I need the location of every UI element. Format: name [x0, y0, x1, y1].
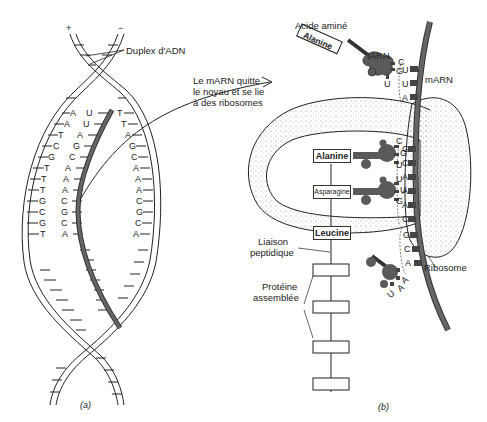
base: C — [61, 219, 68, 228]
base: C — [39, 208, 46, 217]
base: T — [40, 230, 46, 239]
arrow-note: Le mARN quitte le noyau et se lie à des … — [193, 75, 264, 108]
base: A — [133, 230, 139, 239]
plus-strand-marker: + — [66, 23, 71, 34]
panel-b-label: (b) — [378, 402, 389, 412]
minus-strand-marker: − — [118, 23, 123, 34]
base: T — [117, 109, 123, 118]
codon-base: G — [403, 231, 410, 240]
base: A — [77, 131, 83, 140]
codon-base: U — [402, 66, 409, 75]
anticodon-base: U — [384, 80, 391, 89]
codon-base: A — [405, 259, 411, 268]
base: G — [136, 208, 143, 217]
codon-base: A — [402, 187, 408, 196]
base: A — [133, 164, 139, 173]
base: G — [39, 219, 46, 228]
base: C — [136, 197, 143, 206]
base: T — [41, 175, 47, 184]
codon-base: U — [402, 80, 409, 89]
base: C — [135, 219, 142, 228]
base: T — [40, 186, 46, 195]
bound-amino-acid-1: Alanine — [313, 149, 351, 163]
base: U — [86, 109, 93, 118]
arrow-note-line: Le mARN quitte — [193, 75, 264, 86]
base: A — [62, 186, 68, 195]
duplex-label: Duplex d'ADN — [126, 45, 185, 56]
codon-base: A — [402, 94, 408, 103]
mrna-strand-transcribed — [78, 110, 120, 328]
codon-base: C — [404, 245, 411, 254]
ribosome-label: Ribosome — [424, 262, 467, 273]
panel-a-label: (a) — [80, 400, 91, 410]
base: G — [73, 142, 80, 151]
base: A — [62, 230, 68, 239]
codon-base: A — [402, 201, 408, 210]
codon-base: C — [402, 159, 409, 168]
base: T — [58, 131, 64, 140]
peptide-bond-label-2: peptidique — [250, 247, 294, 258]
base: C — [131, 153, 138, 162]
codon-base: G — [402, 145, 409, 154]
arrow-note-line: le noyau et se lie — [193, 86, 264, 97]
base: A — [63, 175, 69, 184]
base: A — [70, 109, 76, 118]
bound-amino-acid-2: Asparagine — [313, 185, 351, 199]
amino-acid-label: Acide aminé — [295, 20, 347, 31]
diagram-artwork — [0, 0, 487, 422]
trna-label: tARN — [367, 50, 390, 61]
protein-label-2: assemblée — [253, 292, 299, 303]
base: T — [121, 120, 127, 129]
chain-top-amino-acid: Leucine — [313, 226, 351, 240]
base: C — [61, 197, 68, 206]
figure: + − Duplex d'ADN A A T C G T T T G C G T… — [0, 0, 487, 422]
base: A — [136, 186, 142, 195]
peptide-bond-label: Liaison — [258, 236, 288, 247]
base: G — [48, 153, 55, 162]
base: C — [69, 153, 76, 162]
arrow-note-line: à des ribosomes — [193, 97, 264, 108]
codon-base: C — [402, 215, 409, 224]
base: G — [39, 197, 46, 206]
trna-outgoing — [366, 256, 400, 288]
base: A — [135, 175, 141, 184]
mrna-label: mARN — [425, 74, 453, 85]
codon-base: A — [402, 173, 408, 182]
base: G — [61, 208, 68, 217]
base: U — [83, 120, 90, 129]
duplex-leader — [86, 50, 124, 64]
anticodon-base: U — [396, 175, 403, 184]
base: A — [125, 131, 131, 140]
base: A — [64, 120, 70, 129]
base: A — [65, 164, 71, 173]
protein-label: Protéine — [262, 281, 297, 292]
base: C — [53, 142, 60, 151]
base: T — [44, 164, 50, 173]
base: G — [129, 142, 136, 151]
